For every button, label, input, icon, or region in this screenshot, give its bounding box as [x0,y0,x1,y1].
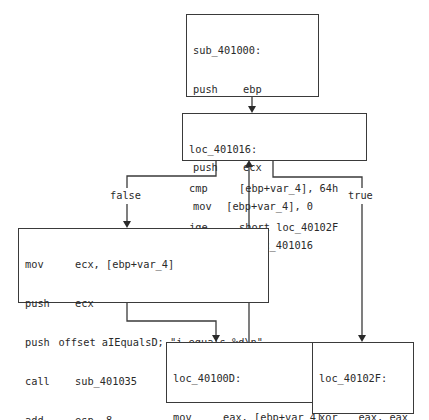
instruction: cmp[ebp+var_4], 64h [189,182,361,195]
operands: ecx [75,297,94,310]
block-loop-body: movecx, [ebp+var_4] pushecx pushoffset a… [18,228,269,303]
opcode: mov [25,258,75,271]
block-loc_40102F: loc_40102F: xoreax, eax movesp, ebp pope… [312,342,414,414]
opcode: add [25,414,75,420]
control-flow-graph: false true sub_401000: pushebp movebp, e… [0,0,429,420]
operands: esp, 8 [75,414,112,420]
instruction: movecx, [ebp+var_4] [25,258,263,271]
block-sub_401000: sub_401000: pushebp movebp, esp pushecx … [186,14,319,97]
opcode: call [25,375,75,388]
operands: sub_401035 [75,375,137,388]
opcode: cmp [189,182,239,195]
operands: ecx, [ebp+var_4] [75,258,174,271]
block-label: loc_401016: [189,143,361,156]
block-label: loc_40102F: [319,372,408,385]
instruction: pushebp [193,83,313,96]
operands: ebp [243,83,262,96]
instruction: pushecx [25,297,263,310]
opcode: push [25,336,58,349]
opcode: mov [173,411,223,420]
block-loc_401016: loc_401016: cmp[ebp+var_4], 64h jgeshort… [182,113,367,161]
operands: eax, eax [358,411,408,420]
opcode: push [193,83,243,96]
instruction: xoreax, eax [319,411,408,420]
opcode: push [25,297,75,310]
operands: [ebp+var_4], 64h [239,182,338,195]
edge-label-false: false [108,189,143,201]
block-label: sub_401000: [193,44,313,57]
opcode: xor [319,411,358,420]
operands: eax, [ebp+var_4] [223,411,322,420]
